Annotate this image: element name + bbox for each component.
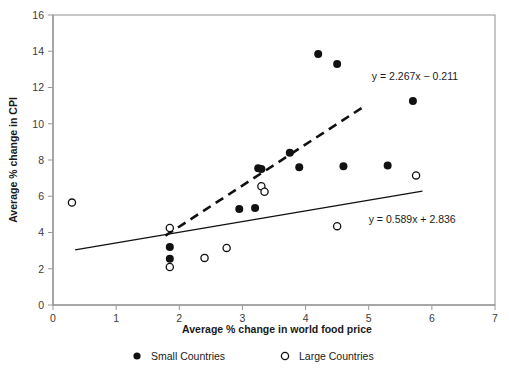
y-tick-label: 4	[38, 226, 44, 238]
axis-ticks	[48, 15, 495, 310]
y-tick-label: 10	[32, 118, 44, 130]
chart-canvas: 012345670246810121416 y = 2.267x − 0.211…	[0, 0, 509, 376]
data-point	[257, 165, 265, 173]
axis-tick-labels: 012345670246810121416	[32, 9, 498, 324]
data-point	[339, 162, 347, 170]
legend-marker-small-countries	[133, 352, 140, 359]
x-tick-label: 7	[492, 312, 498, 324]
legend-label-large-countries: Large Countries	[299, 350, 374, 362]
y-tick-label: 0	[38, 299, 44, 311]
x-tick-label: 6	[429, 312, 435, 324]
legend-label-small-countries: Small Countries	[151, 350, 225, 362]
data-point	[314, 50, 322, 58]
plot-frame	[53, 15, 495, 305]
data-point	[251, 204, 259, 212]
data-point	[384, 161, 392, 169]
data-point	[223, 244, 230, 251]
y-axis-title: Average % change in CPI	[7, 97, 19, 223]
small-countries-trendline-equation: y = 2.267x − 0.211	[372, 70, 458, 82]
data-point	[409, 97, 417, 105]
y-tick-label: 8	[38, 154, 44, 166]
data-point	[334, 223, 341, 230]
plot-border	[53, 15, 495, 305]
y-tick-label: 6	[38, 190, 44, 202]
x-tick-label: 0	[50, 312, 56, 324]
legend: Small Countries Large Countries	[133, 350, 373, 362]
data-point	[412, 172, 419, 179]
data-point	[166, 243, 174, 251]
small-countries-trendline	[165, 105, 365, 235]
scatter-chart: 012345670246810121416 y = 2.267x − 0.211…	[0, 0, 509, 376]
data-point	[286, 149, 294, 157]
equation-labels: y = 2.267x − 0.211y = 0.589x + 2.836	[369, 70, 459, 224]
data-point	[201, 254, 208, 261]
trendlines	[75, 105, 422, 249]
y-tick-label: 16	[32, 9, 44, 21]
data-points	[68, 50, 419, 271]
x-axis-title: Average % change in world food price	[182, 323, 372, 335]
large-countries-trendline-equation: y = 0.589x + 2.836	[369, 213, 456, 225]
data-point	[166, 263, 173, 270]
data-point	[166, 255, 174, 263]
y-tick-label: 14	[32, 45, 44, 57]
data-point	[333, 60, 341, 68]
x-tick-label: 1	[113, 312, 119, 324]
data-point	[295, 163, 303, 171]
y-tick-label: 2	[38, 263, 44, 275]
y-tick-label: 12	[32, 81, 44, 93]
legend-marker-large-countries	[281, 352, 288, 359]
data-point	[166, 224, 173, 231]
data-point	[261, 188, 268, 195]
data-point	[68, 199, 75, 206]
data-point	[235, 205, 243, 213]
